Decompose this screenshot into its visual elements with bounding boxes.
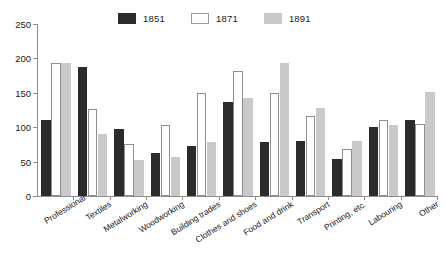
legend-swatch-1891 <box>264 13 282 24</box>
bar <box>425 92 434 196</box>
bar <box>207 142 216 196</box>
y-tick-mark <box>33 196 37 197</box>
bar <box>223 102 232 196</box>
bar <box>280 63 289 196</box>
y-tick-label: 50 <box>20 156 31 167</box>
bar <box>114 129 123 196</box>
y-tick-label: 100 <box>15 122 31 133</box>
legend-label-1891: 1891 <box>289 13 311 24</box>
bar <box>389 125 398 196</box>
legend-item-1871: 1871 <box>191 13 238 24</box>
bar <box>415 124 424 196</box>
legend-item-1891: 1891 <box>264 13 311 24</box>
bar <box>233 71 242 196</box>
bar <box>187 146 196 196</box>
bar <box>78 67 87 196</box>
legend-label-1871: 1871 <box>216 13 238 24</box>
bar <box>296 141 305 196</box>
y-tick-label: 150 <box>15 87 31 98</box>
bar <box>171 157 180 196</box>
bar <box>243 98 252 196</box>
bar <box>161 125 170 196</box>
bar <box>332 159 341 196</box>
y-tick-label: 200 <box>15 53 31 64</box>
bar <box>306 116 315 196</box>
bar <box>51 63 60 196</box>
bar <box>405 120 414 196</box>
bars-layer <box>37 24 437 196</box>
bar <box>41 120 50 196</box>
plot-area: 050100150200250 <box>37 24 437 196</box>
bar <box>151 153 160 196</box>
bar <box>197 93 206 196</box>
legend-item-1851: 1851 <box>118 13 165 24</box>
bar <box>352 141 361 196</box>
category-labels: ProfessionalTextilesMetalworkingWoodwork… <box>37 199 445 257</box>
bar <box>369 127 378 196</box>
bar <box>98 134 107 196</box>
bar <box>270 93 279 196</box>
legend-swatch-1871 <box>191 13 209 24</box>
bar-chart: 1851 1871 1891 050100150200250 Professio… <box>0 0 445 257</box>
x-axis-line <box>37 196 437 197</box>
bar <box>134 160 143 196</box>
legend-label-1851: 1851 <box>143 13 165 24</box>
bar <box>61 63 70 196</box>
bar <box>88 109 97 196</box>
bar <box>260 142 269 196</box>
y-tick-label: 250 <box>15 19 31 30</box>
bar <box>316 108 325 196</box>
bar <box>342 149 351 196</box>
bar <box>124 144 133 196</box>
bar <box>379 120 388 196</box>
legend-swatch-1851 <box>118 13 136 24</box>
y-tick-label: 0 <box>26 191 31 202</box>
